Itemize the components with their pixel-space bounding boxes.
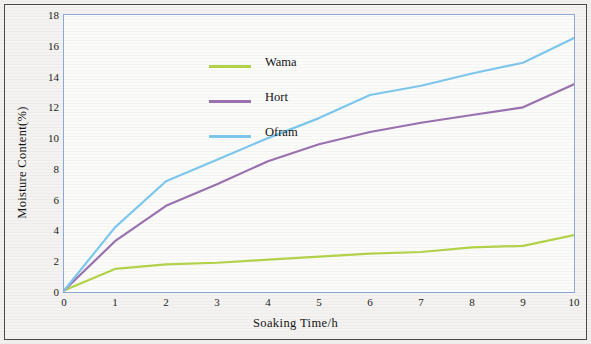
x-tick-label: 9	[508, 296, 538, 308]
y-axis-label: Moisture Content(%)	[15, 78, 30, 248]
series-line-wama	[64, 235, 574, 290]
x-tick-label: 8	[457, 296, 487, 308]
x-tick-label: 0	[49, 296, 79, 308]
legend-label: Hort	[265, 90, 288, 105]
x-tick-label: 2	[151, 296, 181, 308]
y-tick-label: 16	[29, 40, 59, 52]
legend-swatch	[209, 100, 251, 103]
x-tick-label: 4	[253, 296, 283, 308]
y-tick-label: 2	[29, 255, 59, 267]
x-tick-label: 6	[355, 296, 385, 308]
x-axis-label: Soaking Time/h	[0, 316, 591, 331]
legend-swatch	[209, 65, 251, 68]
legend-label: Ofram	[265, 125, 298, 140]
legend-item: Ofram	[209, 119, 369, 154]
legend-item: Wama	[209, 49, 369, 84]
y-tick-label: 6	[29, 194, 59, 206]
y-tick-label: 12	[29, 101, 59, 113]
x-axis-ticks: 012345678910	[63, 296, 575, 314]
y-tick-label: 14	[29, 71, 59, 83]
legend-item: Hort	[209, 84, 369, 119]
y-axis-ticks: 024681012141618	[27, 14, 59, 293]
figure-container: 024681012141618 WamaHortOfram Moisture C…	[0, 0, 591, 344]
y-tick-label: 18	[29, 9, 59, 21]
y-tick-label: 10	[29, 132, 59, 144]
y-tick-label: 4	[29, 224, 59, 236]
x-tick-label: 7	[406, 296, 436, 308]
x-tick-label: 1	[100, 296, 130, 308]
x-tick-label: 5	[304, 296, 334, 308]
chart-legend: WamaHortOfram	[209, 49, 369, 154]
y-tick-label: 8	[29, 163, 59, 175]
legend-swatch	[209, 135, 251, 138]
plot-area: WamaHortOfram	[63, 14, 575, 293]
legend-label: Wama	[265, 55, 297, 70]
x-tick-label: 3	[202, 296, 232, 308]
x-tick-label: 10	[559, 296, 589, 308]
